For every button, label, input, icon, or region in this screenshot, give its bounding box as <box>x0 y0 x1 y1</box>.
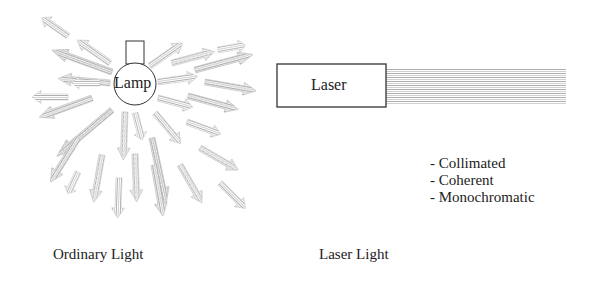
lamp-label: Lamp <box>114 74 151 92</box>
laser-properties-list: - Collimated - Coherent - Monochromatic <box>430 155 535 206</box>
property-item: - Collimated <box>430 155 535 172</box>
property-item: - Monochromatic <box>430 189 535 206</box>
lamp-base <box>126 41 144 64</box>
ordinary-light-caption: Ordinary Light <box>53 246 143 263</box>
property-item: - Coherent <box>430 172 535 189</box>
diagram-canvas <box>0 0 596 284</box>
laser-light-caption: Laser Light <box>319 246 389 263</box>
laser-label: Laser <box>311 76 347 94</box>
laser-beam <box>386 68 566 104</box>
light-rays <box>32 12 257 218</box>
lamp <box>114 41 156 105</box>
